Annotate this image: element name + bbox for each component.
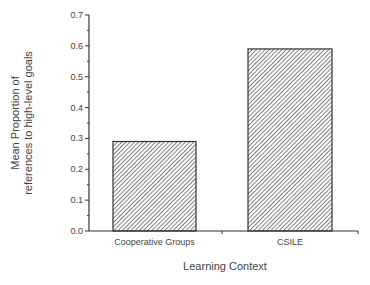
y-tick-label: 0.4 [70,103,83,113]
bar-cooperative-groups [113,142,196,231]
x-axis: Cooperative GroupsCSILE [89,231,358,247]
x-axis-label: Learning Context [183,260,267,272]
y-axis-label-line2: references to high-level goals [22,51,34,195]
y-axis-label-line1: Mean Proportion of [9,75,21,169]
y-tick-label: 0.7 [70,10,83,20]
x-tick-label: Cooperative Groups [114,237,195,247]
y-axis: 0.00.10.20.30.40.50.60.7 [70,10,89,236]
y-tick-label: 0.3 [70,133,83,143]
bar-chart: 0.00.10.20.30.40.50.60.7 Cooperative Gro… [0,0,370,285]
y-tick-label: 0.0 [70,226,83,236]
y-tick-label: 0.5 [70,72,83,82]
bar-csile [248,49,332,231]
bars-group [113,49,332,231]
y-tick-label: 0.2 [70,164,83,174]
y-tick-label: 0.6 [70,41,83,51]
x-tick-label: CSILE [277,237,303,247]
y-tick-label: 0.1 [70,195,83,205]
